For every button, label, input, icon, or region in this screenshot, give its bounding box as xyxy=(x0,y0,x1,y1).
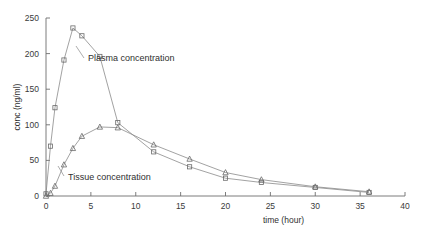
y-tick-label: 0 xyxy=(34,191,39,201)
y-tick-label: 100 xyxy=(25,120,39,130)
x-tick-label: 15 xyxy=(176,201,186,211)
x-tick-label: 40 xyxy=(400,201,410,211)
y-tick-label: 50 xyxy=(30,155,40,165)
y-axis-title: conc (ng/ml) xyxy=(12,83,22,130)
y-tick-label: 200 xyxy=(25,49,39,59)
chart-container: 0510152025303540050100150200250time (hou… xyxy=(0,0,428,235)
x-axis-title: time (hour) xyxy=(263,215,304,225)
x-tick-label: 25 xyxy=(266,201,276,211)
plasma-series-label-leader xyxy=(76,46,84,58)
x-tick-label: 10 xyxy=(131,201,141,211)
x-tick-label: 35 xyxy=(355,201,365,211)
y-tick-label: 250 xyxy=(25,13,39,23)
concentration-time-plot: 0510152025303540050100150200250time (hou… xyxy=(0,0,428,235)
y-tick-label: 150 xyxy=(25,84,39,94)
x-tick-label: 20 xyxy=(221,201,231,211)
tissue-series-label: Tissue concentration xyxy=(68,172,151,182)
series-tissue-concentration xyxy=(43,124,371,198)
plasma-series-label: Plasma concentration xyxy=(88,53,175,63)
series-line xyxy=(46,127,369,196)
x-tick-label: 5 xyxy=(89,201,94,211)
x-tick-label: 0 xyxy=(44,201,49,211)
axes-layer: 0510152025303540050100150200250time (hou… xyxy=(12,13,410,225)
series-plasma-concentration xyxy=(44,26,371,196)
annotation-layer: Plasma concentrationTissue concentration xyxy=(58,46,175,182)
x-tick-label: 30 xyxy=(311,201,321,211)
